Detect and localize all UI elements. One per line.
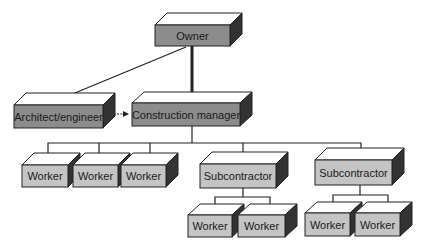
subcontractor-label: Subcontractor bbox=[204, 170, 273, 182]
node-worker-3: Worker bbox=[121, 153, 178, 187]
worker-label: Worker bbox=[360, 219, 396, 231]
manager-label: Construction manager bbox=[132, 109, 241, 121]
node-architect-engineer: Architect/engineer bbox=[14, 93, 115, 128]
node-subcontractor-2: Subcontractor bbox=[315, 148, 404, 185]
node-sub1-worker-1: Worker bbox=[188, 204, 244, 237]
subcontractor-label: Subcontractor bbox=[319, 167, 388, 179]
node-owner: Owner bbox=[155, 13, 242, 46]
worker-label: Worker bbox=[78, 170, 114, 182]
architect-label: Architect/engineer bbox=[14, 111, 103, 123]
node-worker-1: Worker bbox=[22, 153, 80, 187]
manager-bus-line bbox=[48, 143, 361, 153]
worker-label: Worker bbox=[126, 170, 162, 182]
worker-label: Worker bbox=[310, 219, 346, 231]
node-sub2-worker-1: Worker bbox=[305, 202, 362, 236]
node-subcontractor-1: Subcontractor bbox=[200, 152, 288, 188]
worker-label: Worker bbox=[27, 170, 63, 182]
node-construction-manager: Construction manager bbox=[132, 92, 252, 126]
worker-label: Worker bbox=[244, 220, 280, 232]
node-sub2-worker-2: Worker bbox=[355, 202, 412, 236]
node-sub1-worker-2: Worker bbox=[238, 204, 297, 237]
worker-label: Worker bbox=[192, 220, 228, 232]
owner-label: Owner bbox=[176, 30, 209, 42]
org-chart-diagram: Owner Architect/engineer Construction ma… bbox=[0, 0, 423, 250]
